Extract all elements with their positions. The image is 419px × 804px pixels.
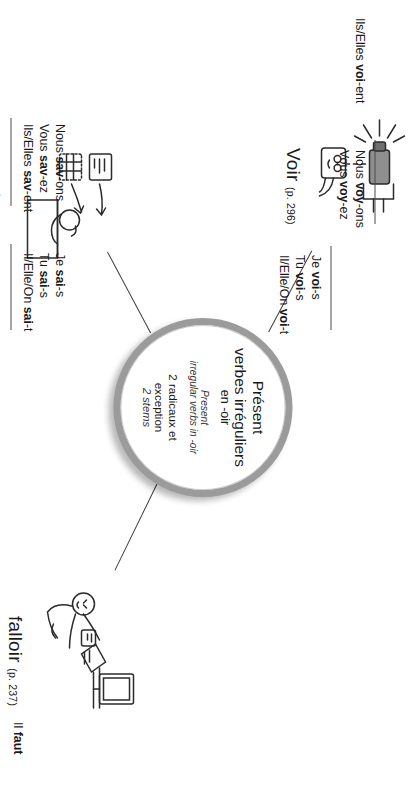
hub-note-fr: 2 radicaux et exception <box>152 374 179 440</box>
verb-title-falloir: falloir (p. 237) <box>3 616 25 706</box>
conj-voir-group2: Nous voy-ons Vous voy-ez <box>335 150 367 228</box>
divider-savoir-1 <box>10 244 11 330</box>
page-ref-falloir: (p. 237) <box>6 668 18 706</box>
person-with-laptop-and-tv-icon <box>33 590 139 720</box>
hub-title: Présent verbes irréguliers en -oir <box>216 348 266 467</box>
verb-title-voir: Voir (p. 296) <box>281 148 303 225</box>
divider-voir-1 <box>330 246 331 330</box>
conj-voir-group1: Je voi-s Tu voi-s Il/Elle/On voi-t <box>275 255 323 334</box>
verb-title-savoir: savoir (p. 275) <box>0 152 3 247</box>
hub-subtitle: Present irregular verbs in -oir <box>186 361 210 454</box>
hub-note-en: 2 stems <box>139 388 152 427</box>
conj-savoir-group2: Nous sav-ons Vous sav-ez Ils/Elles sav-e… <box>19 124 67 212</box>
conj-savoir-group1: Je sai-s Tu sai-s Il/Elle/On sai-t <box>19 253 67 332</box>
conj-voir-group3: Ils/Elles voi-ent <box>351 18 367 103</box>
spoke-to-falloir <box>114 484 157 571</box>
conj-falloir-group1: Il faut <box>9 722 25 754</box>
page-ref-voir: (p. 296) <box>284 187 296 225</box>
central-node: Présent verbes irréguliers en -oir Prese… <box>113 318 292 497</box>
divider-savoir-2 <box>10 118 11 206</box>
divider-voir-2 <box>374 140 375 224</box>
mindmap-canvas: Présent verbes irréguliers en -oir Prese… <box>0 0 419 804</box>
